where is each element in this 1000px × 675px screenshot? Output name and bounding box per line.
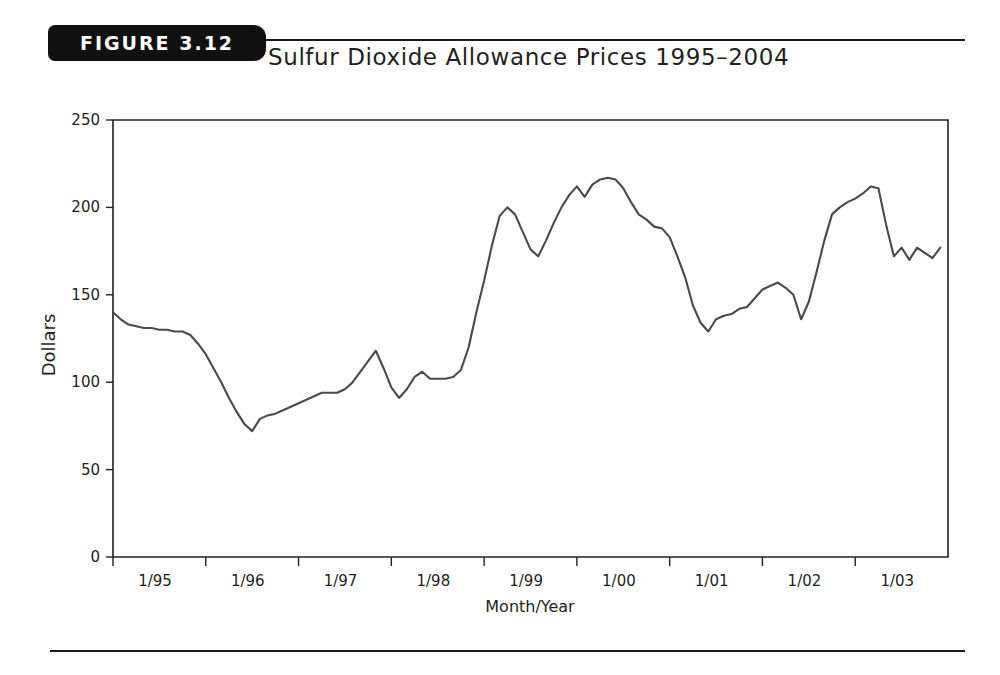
y-axis-ticks <box>106 120 113 557</box>
y-axis-title: Dollars <box>38 314 59 377</box>
x-tick-label: 1/00 <box>602 572 636 590</box>
figure-title: Sulfur Dioxide Allowance Prices 1995–200… <box>268 44 789 70</box>
figure-header: FIGURE 3.12 Sulfur Dioxide Allowance Pri… <box>0 0 1000 95</box>
footer-divider-rule <box>50 650 965 652</box>
y-tick-label: 150 <box>71 286 100 304</box>
figure-number-badge: FIGURE 3.12 <box>48 25 266 61</box>
y-axis-tick-labels: 050100150200250 <box>71 111 100 566</box>
figure-number-label: FIGURE 3.12 <box>80 34 234 53</box>
x-axis-title: Month/Year <box>485 597 575 616</box>
plot-frame <box>113 120 948 557</box>
x-tick-label: 1/02 <box>788 572 822 590</box>
x-tick-label: 1/03 <box>880 572 914 590</box>
y-tick-label: 250 <box>71 111 100 129</box>
x-tick-label: 1/97 <box>324 572 358 590</box>
y-tick-label: 0 <box>90 548 100 566</box>
y-tick-label: 100 <box>71 373 100 391</box>
x-tick-label: 1/98 <box>416 572 450 590</box>
line-chart: 050100150200250 1/951/961/971/981/991/00… <box>0 95 1000 625</box>
x-axis-ticks <box>113 557 855 566</box>
x-tick-label: 1/99 <box>509 572 543 590</box>
price-series-line <box>113 178 940 431</box>
x-tick-label: 1/96 <box>231 572 265 590</box>
y-tick-label: 50 <box>81 461 100 479</box>
x-axis-tick-labels: 1/951/961/971/981/991/001/011/021/03 <box>138 572 914 590</box>
chart-region: 050100150200250 1/951/961/971/981/991/00… <box>0 95 1000 625</box>
x-tick-label: 1/01 <box>695 572 729 590</box>
x-tick-label: 1/95 <box>138 572 172 590</box>
y-tick-label: 200 <box>71 198 100 216</box>
